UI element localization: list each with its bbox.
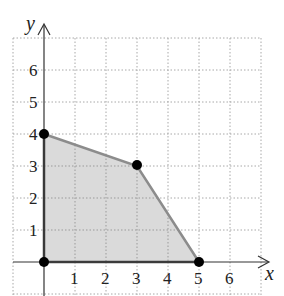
svg-text:3: 3 [132,269,141,288]
svg-text:3: 3 [29,157,38,176]
point-3-3 [132,160,142,170]
feasible-region-chart: y x 1 2 3 4 5 6 1 2 3 4 5 6 [0,0,284,296]
point-0-0 [39,257,49,267]
svg-text:5: 5 [194,269,203,288]
svg-text:6: 6 [29,61,38,80]
svg-text:2: 2 [101,269,110,288]
svg-text:1: 1 [70,269,79,288]
y-tick-labels: 1 2 3 4 5 6 [29,61,38,240]
point-0-4 [39,129,49,139]
svg-text:6: 6 [225,269,234,288]
svg-text:1: 1 [29,221,38,240]
point-5-0 [194,257,204,267]
svg-text:2: 2 [29,189,38,208]
svg-text:4: 4 [163,269,172,288]
y-axis-label: y [24,12,35,35]
svg-text:4: 4 [29,125,38,144]
x-axis-label: x [264,262,274,284]
x-tick-labels: 1 2 3 4 5 6 [70,269,234,288]
svg-text:5: 5 [29,93,38,112]
